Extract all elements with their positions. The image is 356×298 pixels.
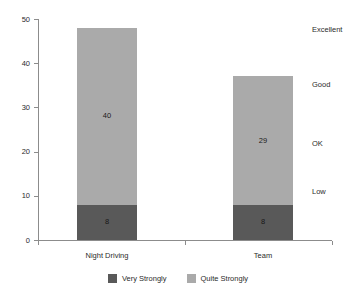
legend-item-very-strongly[interactable]: Very Strongly — [108, 274, 167, 283]
x-tick-mid — [185, 241, 186, 245]
bar-segment-very-strongly[interactable]: 8 — [233, 205, 293, 240]
stacked-bar-chart: 50 40 30 20 10 0 40 8 — [0, 0, 356, 298]
chart-legend: Very Strongly Quite Strongly — [0, 274, 356, 283]
bar-segment-value: 29 — [233, 137, 293, 145]
right-scale-label-excellent: Excellent — [312, 26, 342, 34]
x-tick-end — [332, 241, 333, 245]
legend-swatch-icon — [187, 274, 196, 283]
right-scale-label-good: Good — [312, 81, 330, 89]
y-tick-label: 40 — [22, 60, 30, 68]
plot-area: 40 8 29 8 — [38, 19, 332, 240]
legend-item-quite-strongly[interactable]: Quite Strongly — [187, 274, 249, 283]
right-scale-label-ok: OK — [312, 140, 323, 148]
legend-swatch-icon — [108, 274, 117, 283]
y-tick-label: 50 — [22, 16, 30, 24]
y-tick-label: 30 — [22, 104, 30, 112]
legend-label: Very Strongly — [122, 275, 167, 283]
bar-team[interactable]: 29 8 — [233, 76, 293, 240]
y-tick-label: 0 — [26, 237, 30, 245]
legend-label: Quite Strongly — [201, 275, 249, 283]
y-tick-label: 10 — [22, 193, 30, 201]
bar-segment-value: 8 — [233, 219, 293, 227]
bar-segment-quite-strongly[interactable]: 29 — [233, 76, 293, 204]
bar-segment-value: 8 — [77, 219, 137, 227]
right-scale-label-low: Low — [312, 188, 326, 196]
bar-segment-very-strongly[interactable]: 8 — [77, 205, 137, 240]
x-tick-start — [38, 241, 39, 245]
y-tick-label: 20 — [22, 148, 30, 156]
bar-night-driving[interactable]: 40 8 — [77, 28, 137, 240]
bar-segment-quite-strongly[interactable]: 40 — [77, 28, 137, 205]
category-label-team: Team — [254, 252, 272, 260]
category-label-night-driving: Night Driving — [86, 252, 129, 260]
bar-segment-value: 40 — [77, 112, 137, 120]
